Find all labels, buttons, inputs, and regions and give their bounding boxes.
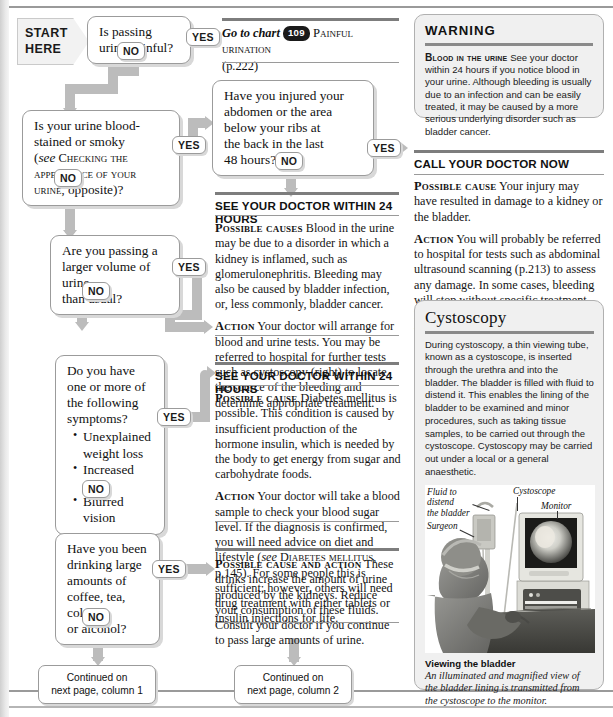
- advice-blood-rule-mid: [215, 215, 399, 216]
- pipe-arrow-q4-no: [75, 322, 89, 331]
- yes-tag-q1[interactable]: YES: [186, 28, 220, 46]
- start-here-line1: START: [25, 26, 68, 42]
- pipe-q1-no-e: [65, 84, 75, 110]
- cystoscopy-body: During cystoscopy, a thin viewing tube, …: [425, 339, 594, 479]
- goto-rule-top: [222, 18, 399, 21]
- cystoscopy-panel: Cystoscopy During cystoscopy, a thin vie…: [414, 300, 604, 690]
- leader-line-cystoscope: [517, 497, 518, 511]
- advice-para-1: Possible cause Diabetes mellitus is poss…: [215, 391, 401, 482]
- pipe-arrow-q4-yes: [204, 320, 213, 334]
- question-text: Is your urine blood-stained or smoky(see…: [34, 118, 140, 197]
- cystoscopy-illustration: Fluid todistendthe bladder Surgeon Cysto…: [425, 485, 595, 653]
- goto-chart-reference[interactable]: Go to chart 109 Painful urination (p.222…: [222, 25, 402, 74]
- advice-drinks-rule-top: [215, 548, 399, 551]
- warning-label: Blood in the urine: [425, 52, 507, 63]
- leader-line-monitor: [557, 511, 558, 519]
- continued-text: Continued onnext page, column 2: [247, 672, 339, 696]
- advice-blood-rule-bottom: [215, 335, 399, 336]
- top-divider: [9, 6, 613, 8]
- question-text: Do you haveone or more ofthe followingsy…: [67, 363, 146, 426]
- question-box-larger-volume-urine[interactable]: Are you passing alarger volume of urinet…: [50, 235, 180, 315]
- start-here-line2: HERE: [25, 42, 61, 58]
- chart-page: START HERE Is passingurine painful? YES …: [0, 0, 613, 717]
- no-tag-q5[interactable]: NO: [82, 480, 110, 498]
- warning-title: WARNING: [425, 23, 593, 38]
- para-label: Action: [215, 489, 255, 503]
- pipe-arrow-q6-yes: [206, 562, 215, 576]
- yes-tag-q6[interactable]: YES: [152, 560, 186, 578]
- symptom-list: Unexplainedweight loss Increasedthirst B…: [73, 429, 154, 526]
- goto-prefix: Go to chart: [222, 26, 280, 40]
- start-here-marker: START HERE: [17, 18, 89, 65]
- label-surgeon: Surgeon: [427, 521, 458, 532]
- illustration-caption-body: An illuminated and magnified view of the…: [425, 670, 594, 708]
- para-label: Action: [215, 319, 255, 333]
- goto-page: (p.222): [222, 59, 258, 73]
- advice-para-1: Possible causes Blood in the urine may b…: [215, 221, 401, 312]
- chart-number-badge: 109: [283, 26, 310, 41]
- symptom-item: Unexplainedweight loss: [73, 429, 154, 461]
- advice-drinks-body: Possible cause and action These drinks i…: [215, 557, 401, 648]
- continued-text: Continued onnext page, column 1: [51, 672, 143, 696]
- warning-divider: [425, 43, 593, 46]
- para-label: Action: [414, 232, 454, 246]
- no-tag-q3[interactable]: NO: [275, 152, 303, 170]
- question-box-urine-bloodstained[interactable]: Is your urine blood-stained or smoky(see…: [22, 110, 180, 206]
- no-tag-q6[interactable]: NO: [82, 608, 110, 626]
- no-tag-q2[interactable]: NO: [54, 169, 82, 187]
- label-monitor: Monitor: [541, 501, 571, 512]
- warning-panel: WARNING Blood in the urine See your doct…: [414, 14, 604, 118]
- call-doctor-rule-mid: [414, 174, 604, 175]
- yes-tag-q2[interactable]: YES: [172, 136, 206, 154]
- yes-tag-q5[interactable]: YES: [157, 408, 191, 426]
- question-text: Are you passing alarger volume of urinet…: [62, 243, 158, 306]
- cystoscopy-divider: [425, 331, 594, 334]
- label-cystoscope: Cystoscope: [513, 486, 555, 497]
- yes-tag-q4[interactable]: YES: [172, 258, 206, 276]
- advice-para-1: Possible cause and action These drinks i…: [215, 557, 401, 648]
- warning-text: Blood in the urine See your doctor withi…: [425, 51, 593, 139]
- continued-box-column-1[interactable]: Continued onnext page, column 1: [38, 665, 156, 704]
- para-label: Possible cause: [215, 391, 298, 405]
- para-label: Possible cause: [414, 179, 497, 193]
- symptom-item: Blurred vision: [73, 494, 154, 526]
- label-fluid-to-distend-bladder: Fluid todistendthe bladder: [427, 487, 479, 519]
- yes-tag-q3[interactable]: YES: [367, 139, 401, 157]
- illustration-caption-title: Viewing the bladder: [425, 658, 594, 669]
- advice-diabetes-rule-mid: [215, 385, 399, 386]
- call-doctor-para-1: Possible cause Your injury may have resu…: [414, 179, 604, 225]
- para-label: Possible cause and action: [215, 557, 361, 571]
- question-box-diabetes-symptoms[interactable]: Do you haveone or more ofthe followingsy…: [55, 355, 165, 535]
- advice-diabetes-rule-top: [215, 362, 399, 365]
- no-tag-q4[interactable]: NO: [82, 282, 110, 300]
- goto-rule-bottom: [222, 62, 399, 63]
- advice-diabetes-rule-bottom: [215, 521, 399, 522]
- warning-body: See your doctor within 24 hours if you n…: [425, 52, 591, 137]
- continued-box-column-2[interactable]: Continued onnext page, column 2: [234, 665, 352, 704]
- call-doctor-heading: CALL YOUR DOCTOR NOW: [414, 157, 604, 170]
- question-box-drinking-caffeine[interactable]: Have you beendrinking largeamounts ofcof…: [55, 533, 160, 645]
- pipe-q5-yes-b: [200, 380, 210, 422]
- advice-blood-rule-top: [215, 192, 399, 195]
- pipe-q4-yes-e: [165, 322, 207, 332]
- no-tag-q1[interactable]: NO: [117, 42, 145, 60]
- para-label: Possible causes: [215, 221, 303, 235]
- advice-drinks-rule-bottom: [215, 622, 399, 623]
- page-edge-strip: [0, 0, 9, 717]
- cystoscopy-title: Cystoscopy: [425, 308, 594, 328]
- call-doctor-rule-top: [414, 150, 604, 153]
